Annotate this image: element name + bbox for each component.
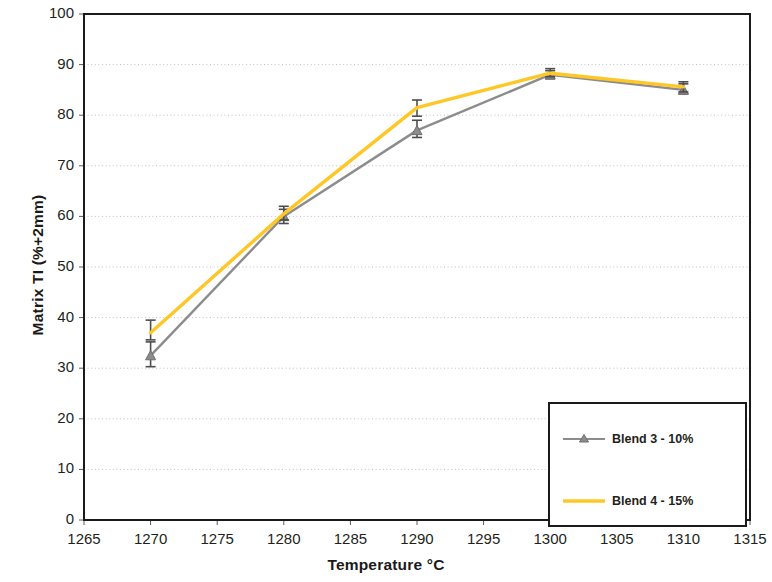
- legend-swatch-icon: [562, 432, 606, 446]
- chart-legend: Blend 3 - 10% Blend 4 - 15%: [548, 402, 747, 527]
- legend-item-blend-3: Blend 3 - 10%: [562, 430, 693, 448]
- series-2: [146, 69, 689, 340]
- legend-swatch-icon: [562, 494, 606, 508]
- chart-container: Matrix TI (%+2mm) 0102030405060708090100…: [0, 0, 772, 582]
- legend-item-blend-4: Blend 4 - 15%: [562, 492, 693, 510]
- data-series-group: [146, 69, 689, 367]
- legend-line-icon: [562, 432, 606, 446]
- legend-line-icon: [562, 494, 606, 508]
- legend-item-label: Blend 4 - 15%: [612, 494, 693, 508]
- legend-item-label: Blend 3 - 10%: [612, 432, 693, 446]
